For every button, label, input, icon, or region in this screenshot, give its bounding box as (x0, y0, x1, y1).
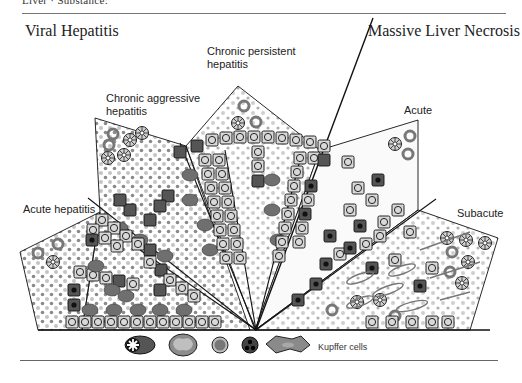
plasma-cell-icon (125, 336, 155, 354)
bottom-divider (20, 360, 498, 361)
legend-label-kupffer-cells: Kupffer cells (318, 342, 367, 352)
macrophage-icon (169, 334, 197, 356)
kupffer-cell-icon (266, 336, 310, 353)
liver-diagram (0, 0, 522, 383)
cell-column-persistent (252, 146, 264, 187)
granulocyte-icon (242, 337, 258, 353)
lymphocyte-icon (212, 337, 228, 353)
legend-icons (125, 334, 310, 356)
